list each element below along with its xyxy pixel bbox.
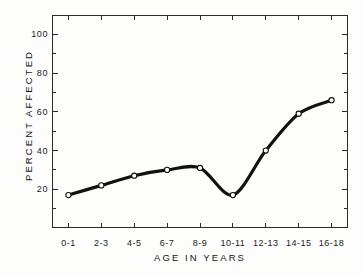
x-tick-label: 0-1	[61, 238, 76, 248]
x-tick-label: 10-11	[220, 238, 245, 248]
x-tick-label: 4-5	[127, 238, 142, 248]
x-axis-tick-labels: 0-12-34-56-78-910-1112-1314-1516-18	[0, 0, 363, 275]
x-tick-label: 8-9	[193, 238, 208, 248]
x-tick-label: 14-15	[286, 238, 312, 248]
y-axis-title: PERCENT AFFECTED	[23, 36, 34, 196]
x-tick-label: 6-7	[160, 238, 175, 248]
chart-figure: 20406080100 0-12-34-56-78-910-1112-1314-…	[0, 0, 363, 275]
x-tick-label: 2-3	[94, 238, 109, 248]
x-axis-title: AGE IN YEARS	[52, 252, 348, 263]
x-tick-label: 16-18	[319, 238, 345, 248]
x-tick-label: 12-13	[253, 238, 279, 248]
